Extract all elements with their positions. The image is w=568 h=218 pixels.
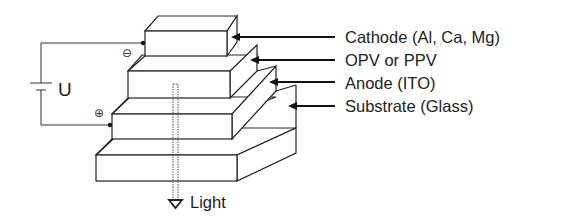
positive-terminal-symbol: ⊕ — [94, 107, 104, 119]
opv-label: OPV or PPV — [345, 52, 437, 69]
cathode-contact-dot — [141, 41, 145, 45]
cathode-label: Cathode (Al, Ca, Mg) — [345, 29, 500, 46]
anode-label: Anode (ITO) — [345, 75, 435, 92]
voltage-label: U — [58, 80, 72, 99]
cathode-layer — [145, 16, 237, 56]
anode-contact-dot — [108, 123, 112, 127]
substrate-label: Substrate (Glass) — [345, 98, 473, 115]
light-label: Light — [190, 194, 226, 211]
negative-terminal-symbol: ⊖ — [122, 47, 132, 59]
light-arrow-icon — [169, 200, 182, 208]
